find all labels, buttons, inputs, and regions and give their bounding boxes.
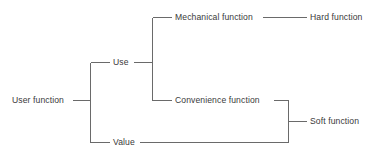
node-convenience-function: Convenience function [175, 95, 260, 105]
diagram-connector-lines [0, 0, 377, 163]
node-value: Value [113, 137, 135, 147]
node-user-function: User function [12, 95, 64, 105]
node-mechanical-function: Mechanical function [175, 12, 253, 22]
node-use: Use [113, 57, 129, 67]
function-tree-diagram: User function Use Value Mechanical funct… [0, 0, 377, 163]
node-hard-function: Hard function [310, 12, 362, 22]
node-soft-function: Soft function [310, 116, 359, 126]
